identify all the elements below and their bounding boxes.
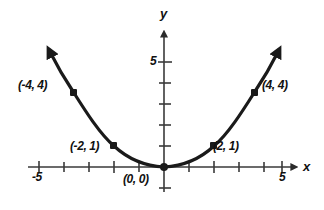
graph-figure: y x 5 -5 5 (-4, 4) (-2, 1) (0, 0) (2, 1)… <box>0 0 324 210</box>
point-label-neg4-4: (-4, 4) <box>18 79 47 91</box>
x-axis-label: x <box>303 160 310 173</box>
point-label-2-1: (2, 1) <box>213 140 239 152</box>
marker-neg2-1 <box>110 142 117 149</box>
x-tick-label-neg5: -5 <box>32 171 42 183</box>
point-label-origin: (0, 0) <box>123 173 149 185</box>
parabola-plot <box>0 0 324 210</box>
point-label-4-4: (4, 4) <box>262 79 288 91</box>
x-tick-label-5: 5 <box>279 171 285 183</box>
y-axis-label: y <box>160 7 167 20</box>
marker-0-0 <box>160 163 168 171</box>
y-tick-label-5: 5 <box>150 55 156 67</box>
point-label-neg2-1: (-2, 1) <box>70 140 99 152</box>
marker-neg4-4 <box>70 89 77 96</box>
marker-4-4 <box>251 89 258 96</box>
